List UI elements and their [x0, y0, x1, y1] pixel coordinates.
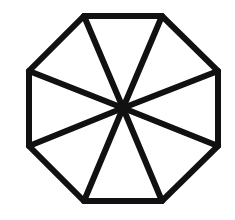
octagon-figure — [0, 0, 235, 220]
octagon-diagram — [0, 0, 235, 220]
